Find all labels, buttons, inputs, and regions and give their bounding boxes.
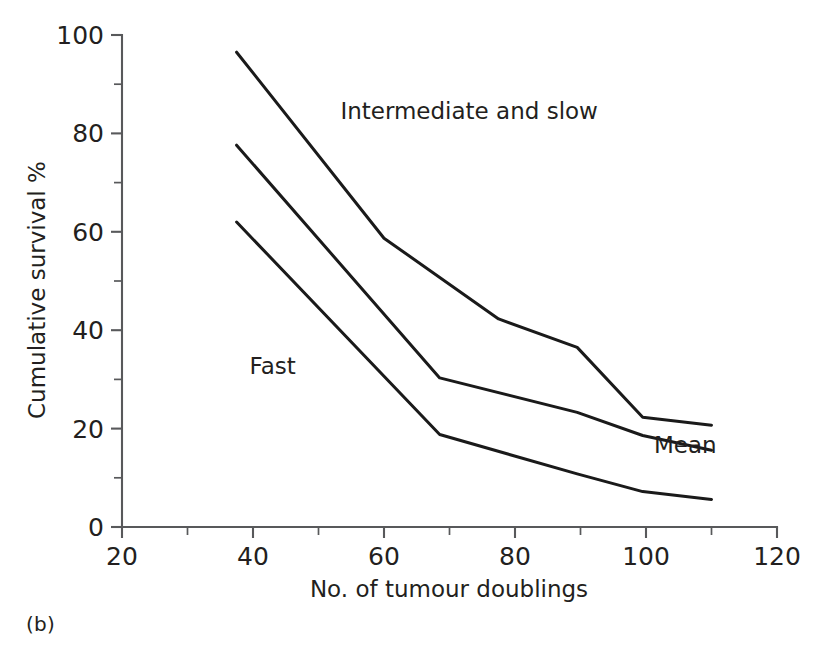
x-tick-label: 20 (106, 542, 138, 571)
annotation-intermediate-and-slow: Intermediate and slow (340, 98, 598, 124)
y-tick-label: 80 (72, 119, 104, 148)
y-tick-label: 60 (72, 218, 104, 247)
annotation-mean: Mean (654, 432, 717, 458)
x-tick-label: 120 (753, 542, 801, 571)
x-tick-label: 40 (237, 542, 269, 571)
y-axis-tick-labels: 020406080100 (56, 21, 104, 542)
annotation-fast: Fast (250, 353, 296, 379)
y-tick-label: 0 (88, 513, 104, 542)
x-axis-title: No. of tumour doublings (310, 576, 588, 602)
x-tick-label: 100 (622, 542, 670, 571)
figure-container: 020406080100 20406080100120 Intermediate… (0, 0, 830, 653)
figure-caption: (b) (26, 612, 55, 636)
x-axis-tick-labels: 20406080100120 (106, 542, 801, 571)
series-annotations: Intermediate and slowFastMean (250, 98, 717, 459)
y-tick-label: 20 (72, 415, 104, 444)
y-tick-label: 40 (72, 316, 104, 345)
y-axis-ticks (111, 35, 122, 527)
survival-line-chart: 020406080100 20406080100120 Intermediate… (0, 0, 830, 653)
x-axis-ticks (122, 527, 777, 538)
series-line-fast (237, 222, 712, 499)
y-axis-title: Cumulative survival % (24, 161, 50, 419)
x-tick-label: 60 (368, 542, 400, 571)
y-tick-label: 100 (56, 21, 104, 50)
x-tick-label: 80 (499, 542, 531, 571)
